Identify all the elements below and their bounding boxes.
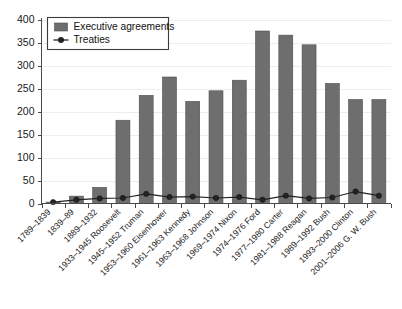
bar-executive-agreements <box>279 35 293 203</box>
y-tick-label: 150 <box>17 128 35 140</box>
treaties-data-point <box>353 189 358 194</box>
treaties-data-point <box>190 194 195 199</box>
legend-swatch-executive-agreements <box>55 23 68 31</box>
legend-label-treaties: Treaties <box>74 34 110 45</box>
treaties-data-point <box>97 196 102 201</box>
bar-executive-agreements <box>349 100 363 204</box>
y-tick-label: 350 <box>17 36 35 48</box>
y-axis-tick-labels: 050100150200250300350400 <box>17 13 35 209</box>
treaties-data-point <box>120 195 125 200</box>
bar-executive-agreements <box>209 91 223 204</box>
treaties-data-point <box>283 193 288 198</box>
chart-legend: Executive agreementsTreaties <box>48 18 175 50</box>
bar-executive-agreements <box>139 95 153 203</box>
bar-executive-agreements <box>302 45 316 204</box>
treaties-data-point <box>167 194 172 199</box>
bar-executive-agreements <box>162 77 176 204</box>
treaties-data-point <box>260 197 265 202</box>
legend-label-executive-agreements: Executive agreements <box>74 21 175 32</box>
y-tick-label: 100 <box>17 151 35 163</box>
treaties-data-point <box>330 195 335 200</box>
y-tick-label: 300 <box>17 59 35 71</box>
bar-executive-agreements <box>232 80 246 203</box>
legend-marker-treaties <box>58 37 64 43</box>
bar-line-chart: 050100150200250300350400 1789–18391839–8… <box>0 0 402 309</box>
y-tick-label: 250 <box>17 82 35 94</box>
y-tick-label: 0 <box>29 197 35 209</box>
y-tick-label: 50 <box>23 174 35 186</box>
bar-executive-agreements <box>372 100 386 204</box>
x-axis-tick-labels: 1789–18391839–891889–19321933–1945 Roose… <box>15 206 378 277</box>
bar-executive-agreements <box>256 31 270 204</box>
chart-container: 050100150200250300350400 1789–18391839–8… <box>0 0 402 309</box>
treaties-data-point <box>376 193 381 198</box>
y-tick-label: 200 <box>17 105 35 117</box>
bar-executive-agreements <box>186 101 200 203</box>
treaties-data-point <box>306 196 311 201</box>
x-tick-label: 1789–1839 <box>15 207 53 245</box>
treaties-data-point <box>237 194 242 199</box>
bar-executive-agreements <box>325 83 339 203</box>
treaties-data-point <box>213 195 218 200</box>
bar-executive-agreements <box>116 120 130 203</box>
bars-group <box>46 31 386 204</box>
y-tick-label: 400 <box>17 13 35 25</box>
treaties-data-point <box>74 197 79 202</box>
treaties-data-point <box>144 191 149 196</box>
